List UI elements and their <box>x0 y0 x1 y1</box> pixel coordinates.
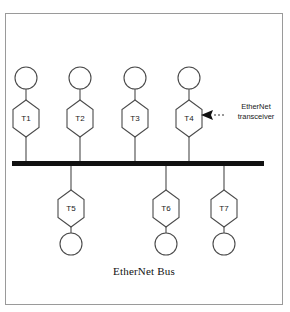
ethernet-bus-diagram: T1T2T3T4 T5T6T7 EtherNet transceiver Eth… <box>0 0 290 312</box>
bottom-node-t6: T6 <box>153 166 179 255</box>
station-circle-t5 <box>60 233 82 255</box>
annotation-line-1: EtherNet <box>227 102 285 112</box>
transceiver-label-t4: T4 <box>184 114 194 123</box>
transceiver-label-t5: T5 <box>66 204 76 213</box>
station-circle-t4 <box>178 67 200 89</box>
bottom-node-t5: T5 <box>58 166 84 255</box>
transceiver-label-t6: T6 <box>161 204 171 213</box>
annotation-line-2: transceiver <box>227 112 285 122</box>
station-circle-t1 <box>15 67 37 89</box>
bottom-transceiver-group: T5T6T7 <box>58 166 237 255</box>
station-circle-t3 <box>124 67 146 89</box>
top-transceiver-group: T1T2T3T4 <box>13 67 202 161</box>
annotation-label: EtherNet transceiver <box>227 102 285 122</box>
station-circle-t7 <box>213 233 235 255</box>
station-circle-t6 <box>155 233 177 255</box>
ethernet-bus-bar <box>12 161 264 166</box>
figure-caption: EtherNet Bus <box>5 265 283 277</box>
top-node-t1: T1 <box>13 67 39 161</box>
top-node-t2: T2 <box>67 67 93 161</box>
transceiver-label-t1: T1 <box>21 114 31 123</box>
transceiver-label-t7: T7 <box>219 204 229 213</box>
station-circle-t2 <box>69 67 91 89</box>
transceiver-label-t3: T3 <box>130 114 140 123</box>
transceiver-label-t2: T2 <box>75 114 85 123</box>
annotation-arrow <box>201 110 224 120</box>
top-node-t3: T3 <box>122 67 148 161</box>
top-node-t4: T4 <box>176 67 202 161</box>
bottom-node-t7: T7 <box>211 166 237 255</box>
